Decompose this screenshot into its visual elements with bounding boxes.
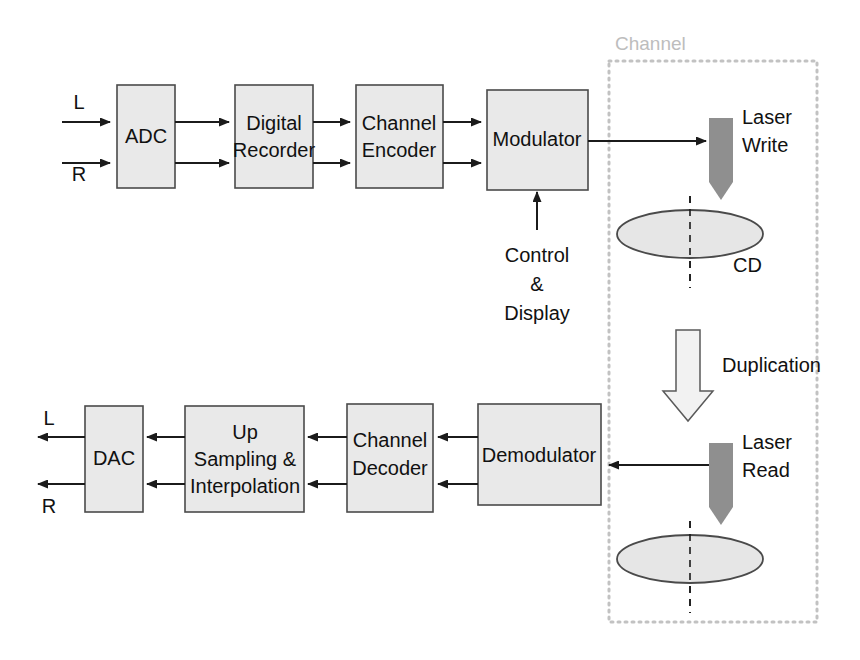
block-demodulator-label: Demodulator — [482, 444, 597, 466]
duplication-arrow-icon — [663, 330, 713, 421]
diagram-canvas: Channel L R ADC Digital Recorder Channel… — [0, 0, 860, 660]
laser-write-label-line1: Laser — [742, 106, 792, 128]
input-label-left: L — [73, 91, 84, 113]
block-channel-decoder-label-line1: Channel — [353, 429, 428, 451]
block-adc-label: ADC — [125, 125, 167, 147]
control-display-line1: Control — [505, 244, 569, 266]
laser-write-label-line2: Write — [742, 134, 788, 156]
block-channel-encoder — [356, 85, 443, 188]
block-up-sampling-label-line3: Interpolation — [190, 475, 300, 497]
laser-read-head-icon — [709, 443, 733, 525]
control-display-line2: & — [530, 273, 544, 295]
block-dac-label: DAC — [93, 447, 135, 469]
block-up-sampling-label-line2: Sampling & — [194, 448, 297, 470]
input-label-right: R — [72, 163, 86, 185]
block-digital-recorder-label-line2: Recorder — [233, 139, 316, 161]
block-channel-encoder-label-line1: Channel — [362, 112, 437, 134]
control-display-line3: Display — [504, 302, 570, 324]
block-digital-recorder — [235, 85, 313, 188]
block-channel-decoder-label-line2: Decoder — [352, 457, 428, 479]
laser-read-label-line2: Read — [742, 459, 790, 481]
cd-label-top: CD — [733, 254, 762, 276]
laser-write-head-icon — [709, 118, 733, 200]
block-up-sampling-label-line1: Up — [232, 421, 258, 443]
block-diagram-svg: Channel L R ADC Digital Recorder Channel… — [0, 0, 860, 660]
duplication-label: Duplication — [722, 354, 821, 376]
block-modulator-label: Modulator — [493, 128, 582, 150]
block-channel-encoder-label-line2: Encoder — [362, 139, 437, 161]
output-label-right: R — [42, 495, 56, 517]
channel-label: Channel — [615, 33, 686, 54]
laser-read-label-line1: Laser — [742, 431, 792, 453]
output-label-left: L — [43, 407, 54, 429]
block-digital-recorder-label-line1: Digital — [246, 112, 302, 134]
